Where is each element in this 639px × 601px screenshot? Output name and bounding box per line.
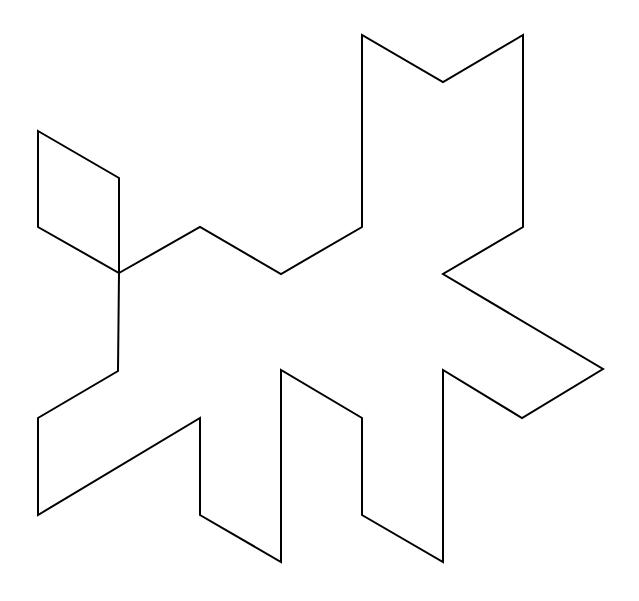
figure-canvas (0, 0, 639, 601)
rhombus-shape (38, 131, 119, 273)
main-outline-shape (38, 35, 603, 562)
line-drawing (0, 0, 639, 601)
